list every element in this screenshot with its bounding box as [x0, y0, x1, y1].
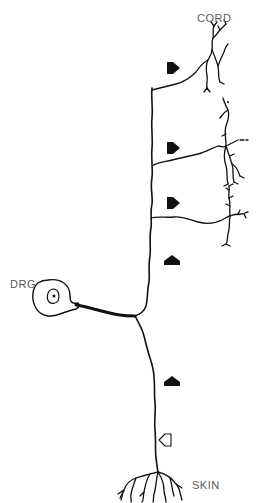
- label-cord: CORD: [197, 12, 231, 24]
- neuron-diagram: CORD DRG SKIN: [0, 0, 267, 503]
- arrows: [159, 62, 180, 446]
- cord-arbor: [204, 20, 229, 103]
- collateral-1: [152, 50, 212, 90]
- collateral-2: [152, 146, 226, 166]
- collateral-3-arbor: [222, 184, 248, 246]
- central-axon: [135, 88, 152, 316]
- skin-arbor: [118, 472, 182, 502]
- arrow-up-icon: [164, 255, 180, 265]
- drg-cell-body: [33, 280, 80, 316]
- collateral-2-arbor: [220, 98, 248, 186]
- collateral-3: [151, 216, 230, 223]
- arrow-right-icon: [167, 142, 180, 154]
- drg-nucleolus: [53, 295, 56, 298]
- label-skin: SKIN: [192, 479, 220, 491]
- arrow-right-icon: [167, 197, 180, 209]
- arrow-up-icon: [164, 376, 180, 386]
- arrow-left-outline-icon: [159, 434, 171, 446]
- stem-axon: [76, 305, 135, 316]
- peripheral-axon: [135, 316, 158, 472]
- neuron-drawing: [0, 0, 267, 503]
- arrow-right-icon: [167, 62, 180, 74]
- label-drg: DRG: [10, 278, 36, 290]
